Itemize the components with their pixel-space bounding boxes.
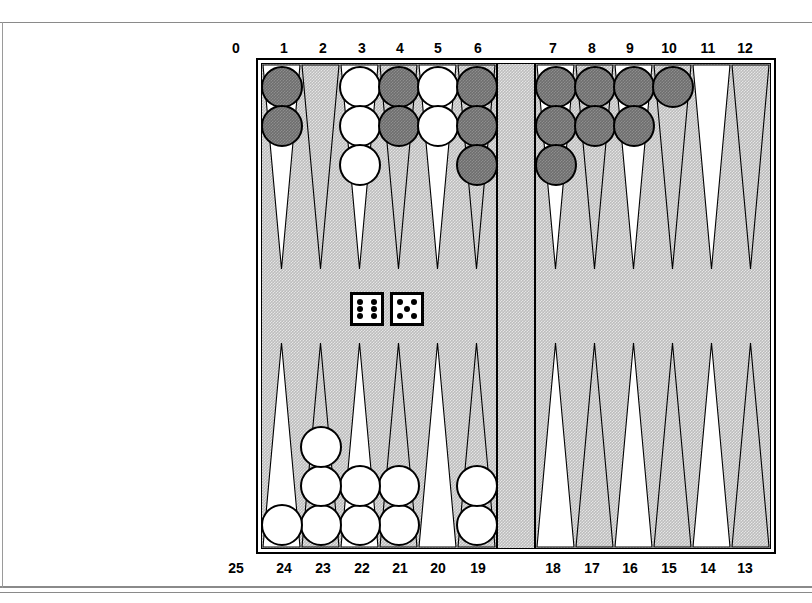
die-cell-empty: [404, 299, 410, 305]
die-pip: [411, 299, 417, 305]
die-left[interactable]: [350, 292, 384, 326]
checker-light-point-19[interactable]: [456, 504, 498, 546]
top-label-1: 1: [272, 40, 296, 56]
point-15[interactable]: [653, 342, 692, 548]
checker-dark-point-8[interactable]: [574, 105, 616, 147]
point-14[interactable]: [692, 342, 731, 548]
bottom-label-23: 23: [311, 560, 335, 576]
die-pip: [397, 299, 403, 305]
bottom-label-13: 13: [733, 560, 757, 576]
die-pip: [357, 313, 363, 319]
checker-dark-point-9[interactable]: [613, 105, 655, 147]
top-label-8: 8: [580, 40, 604, 56]
point-20[interactable]: [418, 342, 457, 548]
die-pip: [357, 306, 363, 312]
scan-line-bottom-1: [0, 586, 812, 588]
scan-line-left: [2, 22, 3, 588]
bottom-label-24: 24: [272, 560, 296, 576]
checker-dark-point-4[interactable]: [378, 105, 420, 147]
top-label-5: 5: [426, 40, 450, 56]
top-label-10: 10: [657, 40, 681, 56]
checker-dark-point-7[interactable]: [535, 105, 577, 147]
bottom-label-17: 17: [580, 560, 604, 576]
checker-light-point-23[interactable]: [300, 426, 342, 468]
top-label-3: 3: [350, 40, 374, 56]
board-playing-surface: [261, 63, 771, 549]
checker-dark-point-8[interactable]: [574, 66, 616, 108]
checker-light-point-22[interactable]: [339, 465, 381, 507]
die-pip: [397, 313, 403, 319]
checker-light-point-24[interactable]: [261, 504, 303, 546]
die-cell-empty: [364, 306, 370, 312]
checker-dark-point-1[interactable]: [261, 66, 303, 108]
checker-dark-point-7[interactable]: [535, 144, 577, 186]
die-cell-empty: [364, 313, 370, 319]
die-cell-empty: [411, 306, 417, 312]
bottom-label-15: 15: [657, 560, 681, 576]
checker-light-point-5[interactable]: [417, 66, 459, 108]
bottom-label-21: 21: [388, 560, 412, 576]
bottom-label-19: 19: [466, 560, 490, 576]
top-label-9: 9: [618, 40, 642, 56]
top-label-4: 4: [388, 40, 412, 56]
checker-dark-point-10[interactable]: [652, 66, 694, 108]
bottom-label-22: 22: [350, 560, 374, 576]
top-label-0: 0: [224, 40, 248, 56]
top-label-2: 2: [311, 40, 335, 56]
top-label-7: 7: [541, 40, 565, 56]
checker-dark-point-4[interactable]: [378, 66, 420, 108]
checker-dark-point-9[interactable]: [613, 66, 655, 108]
die-pip: [371, 299, 377, 305]
point-13[interactable]: [731, 342, 770, 548]
checker-dark-point-1[interactable]: [261, 105, 303, 147]
checker-light-point-19[interactable]: [456, 465, 498, 507]
point-2[interactable]: [301, 64, 340, 270]
point-12[interactable]: [731, 64, 770, 270]
checker-light-point-23[interactable]: [300, 504, 342, 546]
checker-dark-point-6[interactable]: [456, 144, 498, 186]
point-16[interactable]: [614, 342, 653, 548]
die-right[interactable]: [390, 292, 424, 326]
checker-dark-point-6[interactable]: [456, 105, 498, 147]
checker-light-point-23[interactable]: [300, 465, 342, 507]
top-label-11: 11: [696, 40, 720, 56]
checker-light-point-3[interactable]: [339, 66, 381, 108]
checker-light-point-3[interactable]: [339, 105, 381, 147]
bottom-label-25: 25: [224, 560, 248, 576]
checker-dark-point-6[interactable]: [456, 66, 498, 108]
bottom-label-14: 14: [696, 560, 720, 576]
die-pip: [357, 299, 363, 305]
die-pip: [404, 306, 410, 312]
top-label-12: 12: [733, 40, 757, 56]
checker-light-point-3[interactable]: [339, 144, 381, 186]
die-cell-empty: [404, 313, 410, 319]
scan-line-top: [0, 22, 812, 23]
die-pip: [371, 306, 377, 312]
checker-dark-point-7[interactable]: [535, 66, 577, 108]
center-bar[interactable]: [496, 64, 536, 548]
die-cell-empty: [397, 306, 403, 312]
die-pip: [371, 313, 377, 319]
bottom-label-18: 18: [541, 560, 565, 576]
checker-light-point-5[interactable]: [417, 105, 459, 147]
die-cell-empty: [364, 299, 370, 305]
scan-line-bottom-2: [0, 592, 812, 593]
point-17[interactable]: [575, 342, 614, 548]
checker-light-point-22[interactable]: [339, 504, 381, 546]
top-label-6: 6: [466, 40, 490, 56]
checker-light-point-21[interactable]: [378, 504, 420, 546]
bottom-label-20: 20: [426, 560, 450, 576]
die-pip: [411, 313, 417, 319]
checker-light-point-21[interactable]: [378, 465, 420, 507]
bottom-label-16: 16: [618, 560, 642, 576]
backgammon-board: [256, 58, 776, 554]
point-11[interactable]: [692, 64, 731, 270]
point-18[interactable]: [536, 342, 575, 548]
